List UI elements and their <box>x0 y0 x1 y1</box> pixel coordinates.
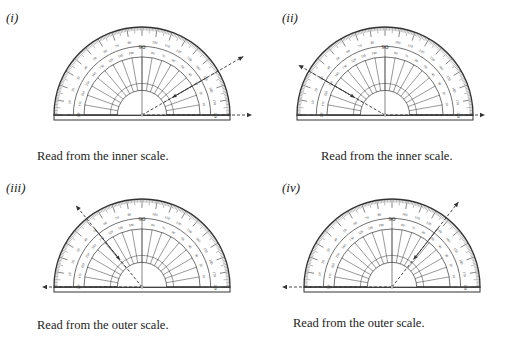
outer-scale-number: 0 <box>67 114 71 116</box>
outer-scale-number: 180 <box>213 284 217 290</box>
ninety-mark: 90 <box>389 215 397 223</box>
origin-point <box>391 286 393 288</box>
arrowhead-icon <box>298 65 303 69</box>
ninety-mark: 90 <box>382 43 390 51</box>
inner-scale-number: 180 <box>320 112 324 117</box>
protractor-i: 0102030405060708010011012013014015016017… <box>54 27 252 120</box>
ninety-mark: 90 <box>139 43 147 51</box>
arrowhead-icon <box>480 113 485 117</box>
ninety-mark: 90 <box>139 215 147 223</box>
inner-scale-number: 0 <box>453 286 457 288</box>
outer-scale-number: 0 <box>310 114 314 116</box>
origin-point <box>141 114 143 116</box>
inner-scale-number: 0 <box>203 286 207 288</box>
inner-scale-number: 180 <box>77 112 81 117</box>
protractor-iii: 0102030405060708010011012013014015016017… <box>42 199 230 292</box>
arrowhead-icon <box>282 285 287 289</box>
protractor-iv: 0102030405060708010011012013014015016017… <box>282 199 480 292</box>
arrowhead-icon <box>42 285 47 289</box>
origin-point <box>141 286 143 288</box>
arrowhead-icon <box>247 113 252 117</box>
arrowhead-icon <box>454 202 459 207</box>
outer-scale-number: 180 <box>463 284 467 290</box>
arrowhead-icon <box>76 205 81 210</box>
origin-point <box>384 114 386 116</box>
protractor-drawings: 0102030405060708010011012013014015016017… <box>0 0 509 354</box>
protractor-ii: 0102030405060708010011012013014015016017… <box>297 27 485 120</box>
